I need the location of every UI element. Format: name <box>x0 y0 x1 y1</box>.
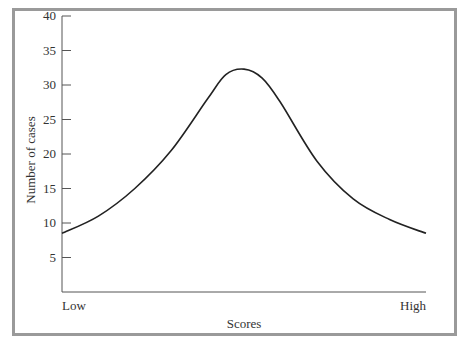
y-tick-label: 25 <box>43 112 56 127</box>
x-tick-high: High <box>400 298 427 313</box>
y-ticks: 510152025303540 <box>43 8 71 265</box>
y-tick-label: 40 <box>43 8 56 23</box>
distribution-curve <box>62 69 426 233</box>
y-axis-label: Number of cases <box>23 116 38 203</box>
x-axis-label: Scores <box>227 316 262 331</box>
y-tick-label: 10 <box>43 215 56 230</box>
axes <box>62 16 426 292</box>
y-tick-label: 35 <box>43 43 56 58</box>
line-chart: 510152025303540 Low High Scores Number o… <box>0 0 466 348</box>
y-tick-label: 30 <box>43 77 56 92</box>
y-tick-label: 20 <box>43 146 56 161</box>
y-tick-label: 15 <box>43 181 56 196</box>
x-tick-low: Low <box>62 298 86 313</box>
y-tick-label: 5 <box>50 250 57 265</box>
